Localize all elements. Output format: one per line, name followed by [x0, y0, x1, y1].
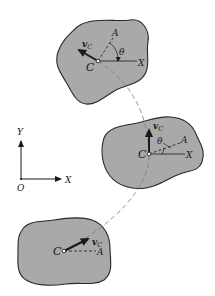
label-c: C — [86, 61, 95, 74]
label-c: C — [53, 245, 62, 258]
label-x-axis: X — [64, 175, 72, 185]
label-theta: θ — [119, 47, 125, 57]
label-c: C — [138, 148, 147, 161]
label-x: X — [137, 58, 145, 68]
body-top-shape — [57, 20, 149, 104]
label-theta: θ — [157, 136, 163, 146]
center-point-c — [62, 249, 66, 253]
center-point-c — [96, 59, 100, 63]
rigid-body-motion-diagram: C A X θ vC C A X θ vC C A vC O X Y — [0, 0, 215, 296]
label-x: X — [185, 150, 193, 160]
label-origin: O — [17, 183, 25, 193]
body-top — [57, 20, 149, 104]
center-point-c — [147, 152, 151, 156]
label-y-axis: Y — [17, 127, 24, 137]
label-a: A — [180, 135, 188, 145]
fixed-axes: O X Y — [17, 127, 72, 193]
origin-point — [20, 178, 22, 180]
label-a: A — [111, 28, 119, 38]
